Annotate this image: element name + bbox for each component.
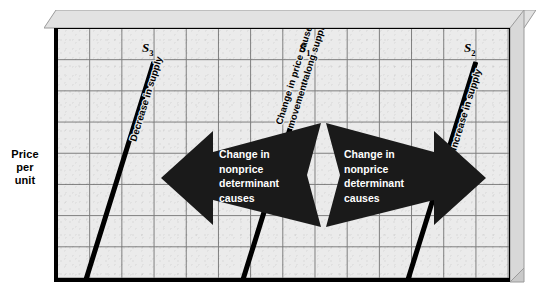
series-label-s2: S2 — [464, 40, 475, 58]
series-subscript: 3 — [149, 48, 153, 58]
left-shift-arrow: Change innonpricedeterminantcauses — [161, 123, 321, 233]
series-label-s3: S3 — [142, 40, 153, 58]
series-label-s1: S1 — [299, 40, 310, 58]
supply-shift-diagram: Priceperunit Decrease in supply Change i… — [0, 0, 544, 306]
y-axis-label: Priceperunit — [2, 148, 48, 187]
right-shift-arrow: Change innonpricedeterminantcauses — [326, 123, 486, 233]
left-arrow-text: Change innonpricedeterminantcauses — [219, 147, 279, 205]
series-subscript: 1 — [306, 48, 310, 58]
chart-3d-block: Decrease in supply Change in price cause… — [44, 10, 536, 296]
plot-area: Decrease in supply Change in price cause… — [54, 28, 510, 282]
series-subscript: 2 — [471, 48, 475, 58]
right-arrow-text: Change innonpricedeterminantcauses — [344, 147, 404, 205]
